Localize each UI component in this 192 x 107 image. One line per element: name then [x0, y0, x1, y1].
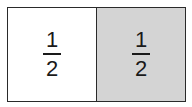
- fraction-line: [43, 53, 61, 55]
- fraction-bar: 1 2 1 2: [7, 7, 186, 102]
- numerator: 1: [46, 29, 58, 51]
- denominator: 2: [135, 58, 147, 80]
- fraction-label: 1 2: [132, 29, 150, 80]
- denominator: 2: [46, 58, 58, 80]
- half-unshaded: 1 2: [8, 8, 96, 101]
- numerator: 1: [135, 29, 147, 51]
- half-shaded: 1 2: [96, 8, 185, 101]
- fraction-line: [132, 53, 150, 55]
- fraction-label: 1 2: [43, 29, 61, 80]
